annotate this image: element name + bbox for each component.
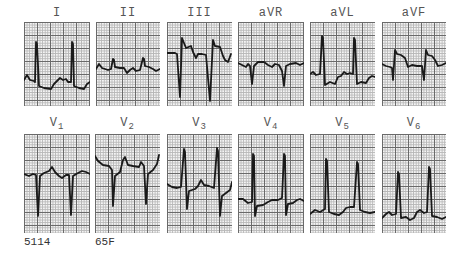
lead-label: II <box>96 6 160 20</box>
ecg-grid <box>24 134 90 233</box>
ecg-trace <box>96 22 160 106</box>
ecg-grid <box>238 22 304 106</box>
ecg-grid <box>310 22 375 106</box>
ecg-trace <box>95 134 160 233</box>
lead-III: III <box>167 6 232 106</box>
lead-label: V1 <box>24 116 90 132</box>
lead-V4: V4 <box>238 116 304 233</box>
lead-label: aVL <box>310 6 375 20</box>
lead-label: III <box>167 6 232 20</box>
lead-aVR: aVR <box>238 6 304 106</box>
ecg-grid <box>310 134 375 233</box>
lead-label: V3 <box>167 116 232 132</box>
ecg-trace <box>167 134 232 233</box>
ecg-grid <box>96 22 160 106</box>
ecg-grid <box>24 22 90 106</box>
ecg-trace <box>24 22 90 106</box>
lead-label: I <box>24 6 90 20</box>
ecg-trace <box>382 134 446 233</box>
lead-aVF: aVF <box>382 6 446 106</box>
ecg-grid <box>167 22 232 106</box>
lead-label: V2 <box>95 116 160 132</box>
lead-label: V4 <box>238 116 304 132</box>
lead-label: V5 <box>310 116 375 132</box>
lead-II: II <box>96 6 160 106</box>
ecg-grid <box>95 134 160 233</box>
ecg-trace <box>382 22 446 106</box>
ecg-grid <box>238 134 304 233</box>
ecg-grid <box>167 134 232 233</box>
ecg-trace <box>310 22 375 106</box>
patient-info: 65F <box>95 236 115 248</box>
lead-V6: V6 <box>382 116 446 233</box>
ecg-trace <box>238 134 304 233</box>
ecg-trace <box>24 134 90 233</box>
ecg-grid <box>382 22 446 106</box>
ecg-trace <box>238 22 304 106</box>
lead-label: aVR <box>238 6 304 20</box>
ecg-trace <box>310 134 375 233</box>
lead-I: I <box>24 6 90 106</box>
lead-label: V6 <box>382 116 446 132</box>
ecg-grid <box>382 134 446 233</box>
ecg-trace <box>167 22 232 106</box>
lead-aVL: aVL <box>310 6 375 106</box>
case-number: 5114 <box>24 236 50 248</box>
lead-V2: V2 <box>95 116 160 233</box>
lead-V5: V5 <box>310 116 375 233</box>
lead-label: aVF <box>382 6 446 20</box>
lead-V3: V3 <box>167 116 232 233</box>
lead-V1: V1 <box>24 116 90 233</box>
